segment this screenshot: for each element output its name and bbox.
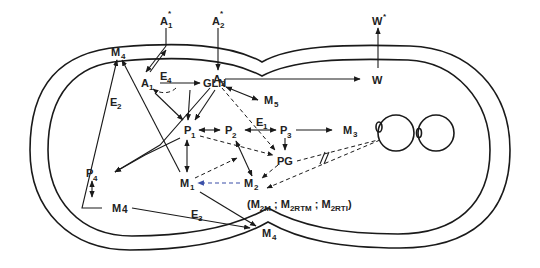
svg-text:2: 2 <box>221 79 226 88</box>
svg-text:PG: PG <box>277 155 293 167</box>
svg-text:3: 3 <box>198 214 203 223</box>
svg-text:A: A <box>160 15 168 27</box>
nucleoid <box>376 115 454 151</box>
node-M4-top: M4 <box>111 46 126 61</box>
enzyme-E3: E3 <box>191 208 203 223</box>
svg-text:*: * <box>220 9 224 18</box>
cell-pathway-diagram: A1* A2* W* W M4 A1 GLN A2 M5 P1 P2 P3 M3… <box>0 0 540 268</box>
node-A1: A1 <box>141 77 154 92</box>
svg-text:A: A <box>141 77 149 89</box>
svg-text:2: 2 <box>254 183 259 192</box>
svg-text:A: A <box>213 73 221 85</box>
svg-text:4: 4 <box>167 76 172 85</box>
node-M4-bottom: M4 <box>262 227 277 242</box>
svg-text:4: 4 <box>121 52 126 61</box>
svg-text:3: 3 <box>353 130 358 139</box>
svg-text:*: * <box>168 9 172 18</box>
svg-text:W: W <box>372 15 383 27</box>
svg-text:2: 2 <box>117 102 122 111</box>
svg-text:M: M <box>112 202 121 214</box>
node-W: W <box>372 74 383 86</box>
m2-variants-annotation: (M2M ; M2RTM ; M2RTI) <box>247 198 352 213</box>
svg-text:4: 4 <box>93 174 98 183</box>
svg-text:1: 1 <box>190 183 195 192</box>
node-M4-left: M4 <box>112 202 128 215</box>
svg-text:W: W <box>372 74 383 86</box>
svg-text:M: M <box>111 46 120 58</box>
svg-text:5: 5 <box>274 100 279 109</box>
svg-text:A: A <box>212 15 220 27</box>
svg-text:1: 1 <box>149 83 154 92</box>
node-P3: P3 <box>280 124 292 140</box>
svg-text:3: 3 <box>287 131 292 140</box>
svg-text:2: 2 <box>220 21 225 30</box>
svg-text:(M2M ; M2RTM ; M2RTI): (M2M ; M2RTM ; M2RTI) <box>247 198 352 213</box>
svg-text:M: M <box>244 177 253 189</box>
svg-text:*: * <box>383 12 387 21</box>
svg-text:M: M <box>343 124 352 136</box>
enzyme-E2: E2 <box>110 96 122 111</box>
svg-text:M: M <box>262 227 271 239</box>
node-PG: PG <box>277 155 293 167</box>
node-M5: M5 <box>264 94 279 109</box>
node-P1: P1 <box>184 124 196 140</box>
svg-text:1: 1 <box>263 122 268 131</box>
node-A2-star: A2* <box>212 9 225 30</box>
svg-text:M: M <box>264 94 273 106</box>
node-M2: M2 <box>244 177 259 192</box>
node-W-star: W* <box>372 12 387 27</box>
node-P2: P2 <box>225 124 237 140</box>
node-A1-star: A1* <box>160 9 173 30</box>
svg-text:2: 2 <box>232 131 237 140</box>
cell-wall-outer <box>30 45 510 250</box>
enzyme-E1: E1 <box>256 116 268 131</box>
node-P4: P4 <box>86 167 98 183</box>
node-M3: M3 <box>343 124 358 139</box>
svg-text:4: 4 <box>272 233 277 242</box>
svg-text:M: M <box>180 177 189 189</box>
svg-text:1: 1 <box>168 21 173 30</box>
svg-text:1: 1 <box>191 131 196 140</box>
svg-text:4: 4 <box>122 204 128 215</box>
node-M1: M1 <box>180 177 195 192</box>
